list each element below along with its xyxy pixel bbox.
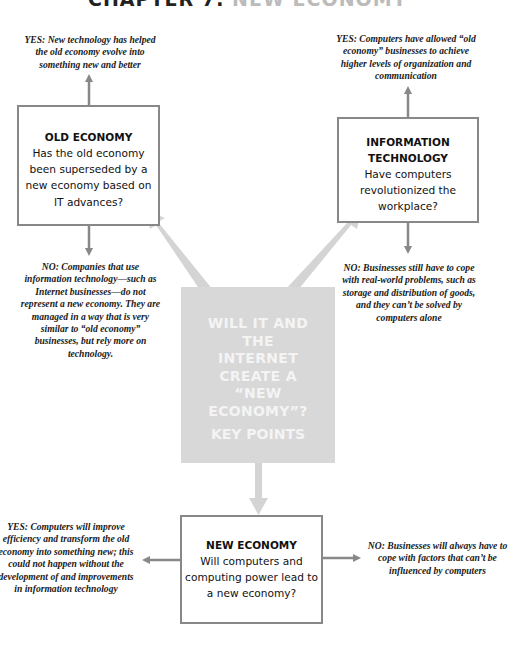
new-economy-box: NEW ECONOMY Will computers and computing… bbox=[180, 515, 323, 624]
old-economy-question-line: been superseded by a bbox=[19, 161, 158, 177]
old-economy-question-line: IT advances? bbox=[19, 194, 158, 210]
it-heading-line: INFORMATION bbox=[339, 134, 477, 150]
old-economy-no-note: NO: Companies that use information techn… bbox=[18, 261, 163, 360]
new-economy-heading: NEW ECONOMY bbox=[182, 537, 321, 553]
center-line: ECONOMY”? bbox=[181, 403, 335, 421]
it-question-line: revolutionized the bbox=[339, 182, 477, 198]
new-economy-question-line: Will computers and bbox=[182, 553, 321, 569]
it-question-line: Have computers bbox=[339, 166, 477, 182]
new-economy-no-note: NO: Businesses will always have to cope … bbox=[365, 540, 510, 577]
center-line: WILL IT AND bbox=[181, 315, 335, 333]
it-yes-note: YES: Computers have allowed “old economy… bbox=[333, 33, 479, 83]
old-economy-heading: OLD ECONOMY bbox=[19, 129, 158, 145]
it-heading-line: TECHNOLOGY bbox=[339, 150, 477, 166]
center-line: THE bbox=[181, 333, 335, 351]
old-economy-box: OLD ECONOMY Has the old economy been sup… bbox=[17, 105, 160, 226]
new-economy-question-line: computing power lead to bbox=[182, 569, 321, 585]
it-no-note: NO: Businesses still have to cope with r… bbox=[336, 262, 482, 324]
center-line: CREATE A bbox=[181, 368, 335, 386]
old-economy-question-line: Has the old economy bbox=[19, 145, 158, 161]
information-technology-box: INFORMATION TECHNOLOGY Have computers re… bbox=[337, 117, 479, 223]
old-economy-question-line: new economy based on bbox=[19, 177, 158, 193]
central-question-box: WILL IT AND THE INTERNET CREATE A “NEW E… bbox=[181, 287, 335, 463]
old-economy-yes-note: YES: New technology has helped the old e… bbox=[18, 34, 162, 71]
key-points-label: KEY POINTS bbox=[181, 426, 335, 443]
center-line: INTERNET bbox=[181, 350, 335, 368]
new-economy-yes-note: YES: Computers will improve efficiency a… bbox=[0, 521, 138, 595]
center-line: “NEW bbox=[181, 385, 335, 403]
it-question-line: workplace? bbox=[339, 198, 477, 214]
new-economy-question-line: a new economy? bbox=[182, 585, 321, 601]
